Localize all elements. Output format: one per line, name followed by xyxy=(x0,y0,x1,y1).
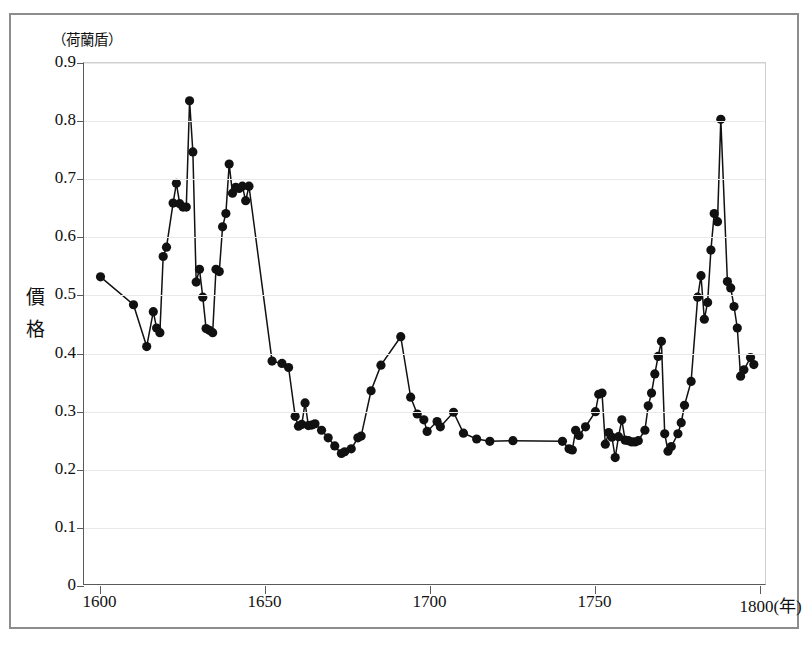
data-point-marker xyxy=(155,328,164,337)
y-tick-mark xyxy=(77,237,84,238)
data-point-marker xyxy=(687,377,696,386)
data-point-marker xyxy=(673,429,682,438)
data-point-marker xyxy=(142,342,151,351)
data-point-marker xyxy=(188,147,197,156)
y-tick-label: 0.1 xyxy=(30,517,76,537)
x-tick-label: 1800(年) xyxy=(739,592,801,617)
y-tick-mark xyxy=(77,412,84,413)
gridline-y xyxy=(84,179,765,180)
data-point-marker xyxy=(472,434,481,443)
data-point-marker xyxy=(650,369,659,378)
x-tick-label: 1750 xyxy=(577,592,611,612)
data-point-marker xyxy=(244,182,253,191)
data-point-marker xyxy=(696,271,705,280)
data-point-marker xyxy=(96,272,105,281)
gridline-y xyxy=(84,412,765,413)
data-point-marker xyxy=(396,332,405,341)
data-point-marker xyxy=(376,361,385,370)
data-point-marker xyxy=(680,401,689,410)
y-tick-label: 0.3 xyxy=(30,401,76,421)
data-point-marker xyxy=(267,357,276,366)
data-point-marker xyxy=(241,196,250,205)
data-point-marker xyxy=(195,265,204,274)
data-point-marker xyxy=(693,293,702,302)
data-point-marker xyxy=(221,209,230,218)
data-point-marker xyxy=(159,252,168,261)
data-point-marker xyxy=(729,302,738,311)
data-point-marker xyxy=(700,315,709,324)
data-point-marker xyxy=(706,246,715,255)
data-point-marker xyxy=(716,115,725,124)
data-point-marker xyxy=(749,360,758,369)
gridline-y xyxy=(84,528,765,529)
data-point-marker xyxy=(558,437,567,446)
y-tick-mark xyxy=(77,470,84,471)
data-point-marker xyxy=(225,160,234,169)
data-point-marker xyxy=(423,427,432,436)
data-point-marker xyxy=(703,298,712,307)
data-point-marker xyxy=(218,222,227,231)
y-tick-mark xyxy=(77,354,84,355)
data-point-marker xyxy=(366,386,375,395)
y-tick-mark xyxy=(77,295,84,296)
data-point-marker xyxy=(644,401,653,410)
x-tick-label: 1600 xyxy=(82,592,116,612)
data-point-marker xyxy=(192,277,201,286)
y-tick-label: 0.4 xyxy=(30,343,76,363)
data-point-marker xyxy=(640,426,649,435)
y-tick-label: 0.9 xyxy=(30,52,76,72)
data-point-marker xyxy=(581,422,590,431)
data-point-marker xyxy=(330,441,339,450)
data-point-marker xyxy=(182,203,191,212)
data-point-marker xyxy=(485,437,494,446)
data-point-marker xyxy=(162,243,171,252)
data-point-marker xyxy=(657,337,666,346)
data-point-marker xyxy=(347,444,356,453)
gridline-y xyxy=(84,470,765,471)
data-point-marker xyxy=(198,293,207,302)
data-point-marker xyxy=(739,365,748,374)
x-tick-label: 1650 xyxy=(247,592,281,612)
y-axis-unit-label: （荷蘭盾） xyxy=(52,28,122,49)
gridline-y xyxy=(84,237,765,238)
data-point-marker xyxy=(568,445,577,454)
data-point-marker xyxy=(726,283,735,292)
data-point-marker xyxy=(677,418,686,427)
data-point-marker xyxy=(508,436,517,445)
data-point-marker xyxy=(149,307,158,316)
data-point-marker xyxy=(291,412,300,421)
data-point-marker xyxy=(406,393,415,402)
data-point-marker xyxy=(459,429,468,438)
data-point-marker xyxy=(634,436,643,445)
data-point-marker xyxy=(660,429,669,438)
data-point-marker xyxy=(357,431,366,440)
data-point-marker xyxy=(710,209,719,218)
data-point-marker xyxy=(208,328,217,337)
y-tick-mark xyxy=(77,63,84,64)
gridline-y xyxy=(84,121,765,122)
y-tick-label: 0.6 xyxy=(30,226,76,246)
data-point-marker xyxy=(647,388,656,397)
plot-area xyxy=(83,62,766,585)
data-point-marker xyxy=(310,419,319,428)
data-point-marker xyxy=(324,433,333,442)
y-tick-label: 0.8 xyxy=(30,110,76,130)
data-point-marker xyxy=(601,440,610,449)
data-series-layer xyxy=(84,63,767,586)
y-tick-mark xyxy=(77,179,84,180)
data-point-marker xyxy=(185,96,194,105)
y-tick-mark xyxy=(77,121,84,122)
data-point-marker xyxy=(611,453,620,462)
data-point-marker xyxy=(713,217,722,226)
data-point-marker xyxy=(667,442,676,451)
gridline-y xyxy=(84,63,765,64)
y-tick-label: 0.2 xyxy=(30,459,76,479)
price-chart: （荷蘭盾） 價 格 00.10.20.30.40.50.60.70.80.916… xyxy=(0,0,809,646)
data-point-marker xyxy=(284,363,293,372)
data-point-marker xyxy=(317,426,326,435)
data-point-marker xyxy=(215,267,224,276)
y-tick-label: 0.5 xyxy=(30,284,76,304)
data-point-marker xyxy=(617,415,626,424)
data-point-marker xyxy=(300,398,309,407)
gridline-y xyxy=(84,354,765,355)
